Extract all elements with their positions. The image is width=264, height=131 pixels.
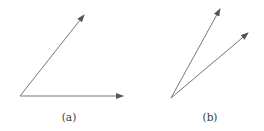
shallow-vector-arrow: [171, 33, 248, 98]
upper-vector-arrow: [20, 15, 84, 96]
panel-a-caption: (a): [62, 111, 76, 123]
panel-a-vectors: [20, 15, 123, 96]
figure-canvas: (a) (b): [0, 0, 264, 131]
panel-b-vectors: [171, 9, 248, 98]
panel-b-caption: (b): [203, 111, 218, 123]
vector-diagram: [0, 0, 264, 131]
steep-vector-arrow: [171, 9, 220, 98]
